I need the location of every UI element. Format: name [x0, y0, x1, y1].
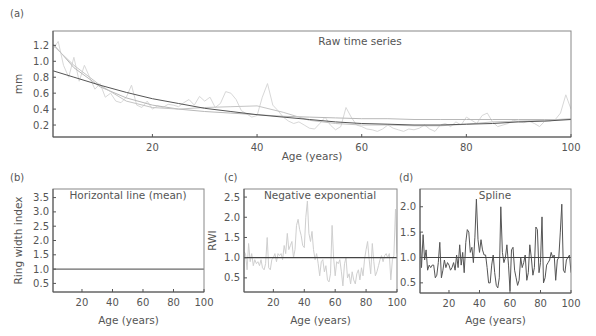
y-tick-label: 2.0 [33, 235, 49, 246]
series-line [53, 41, 571, 131]
x-tick-label: 100 [194, 297, 213, 308]
panel-label: (d) [399, 172, 413, 183]
y-tick-label: 0.5 [400, 277, 416, 288]
y-axis-label: mm [12, 74, 24, 94]
x-axis-label: Age (years) [290, 314, 351, 326]
x-tick-label: 80 [534, 298, 547, 309]
x-tick-label: 100 [561, 298, 580, 309]
x-axis-label: Age (years) [465, 314, 526, 326]
y-tick-label: 1.0 [224, 252, 240, 263]
y-tick-label: 0.5 [224, 272, 240, 283]
y-axis-label: RWI [206, 230, 218, 250]
figure: (a)204060801000.20.40.60.81.01.2Raw time… [0, 0, 596, 336]
y-tick-label: 0.2 [33, 120, 49, 131]
x-tick-label: 40 [298, 297, 311, 308]
x-tick-label: 40 [251, 142, 264, 153]
chart-title: Negative exponential [264, 189, 376, 201]
y-tick-label: 1.0 [33, 264, 49, 275]
y-tick-label: 1.5 [33, 249, 49, 260]
x-tick-label: 100 [387, 297, 406, 308]
x-tick-label: 40 [106, 297, 119, 308]
panel-label: (b) [10, 172, 24, 183]
x-axis-label: Age (years) [282, 150, 343, 162]
y-tick-label: 1.2 [33, 40, 49, 51]
x-tick-label: 100 [561, 142, 580, 153]
y-tick-label: 0.5 [33, 278, 49, 289]
chart-title: Horizontal line (mean) [69, 189, 186, 201]
x-axis-label: Age (years) [98, 314, 159, 326]
x-tick-label: 20 [267, 297, 280, 308]
y-tick-label: 1.0 [33, 56, 49, 67]
plot-frame [53, 189, 204, 292]
x-tick-label: 80 [167, 297, 180, 308]
panel-label: (a) [10, 8, 24, 19]
x-tick-label: 60 [137, 297, 150, 308]
x-tick-label: 20 [146, 142, 159, 153]
x-tick-label: 60 [355, 142, 368, 153]
x-tick-label: 80 [360, 297, 373, 308]
x-tick-label: 20 [76, 297, 89, 308]
y-tick-label: 3.5 [33, 192, 49, 203]
series-line [420, 199, 571, 290]
series-group [53, 41, 571, 131]
y-tick-label: 3.0 [33, 206, 49, 217]
chart-title: Raw time series [318, 35, 402, 47]
chart-panel-b: (b)204060801000.51.01.52.02.53.03.5Horiz… [10, 172, 214, 326]
x-tick-label: 60 [329, 297, 342, 308]
panel-label: (c) [224, 172, 237, 183]
y-tick-label: 2.0 [224, 212, 240, 223]
series-group [244, 201, 397, 286]
chart-title: Spline [479, 189, 511, 201]
x-tick-label: 60 [504, 298, 517, 309]
series-line [53, 44, 571, 120]
y-tick-label: 0.8 [33, 72, 49, 83]
y-tick-label: 2.5 [33, 221, 49, 232]
x-tick-label: 80 [460, 142, 473, 153]
y-axis-label: Ring width index [12, 197, 24, 285]
y-tick-label: 2.5 [224, 192, 240, 203]
series-line [53, 45, 571, 126]
y-tick-label: 0.6 [33, 88, 49, 99]
y-tick-label: 2.0 [400, 201, 416, 212]
chart-panel-c: (c)204060801000.51.01.52.02.5Negative ex… [206, 172, 407, 326]
y-tick-label: 1.5 [224, 232, 240, 243]
x-tick-label: 20 [443, 298, 456, 309]
series-group [420, 199, 571, 290]
series-line [244, 201, 397, 286]
y-tick-label: 1.0 [400, 252, 416, 263]
chart-panel-d: (d)204060801000.51.01.52.0SplineAge (yea… [399, 172, 581, 326]
chart-panel-a: (a)204060801000.20.40.60.81.01.2Raw time… [10, 8, 581, 162]
y-tick-label: 0.4 [33, 104, 49, 115]
x-tick-label: 40 [473, 298, 486, 309]
y-tick-label: 1.5 [400, 227, 416, 238]
